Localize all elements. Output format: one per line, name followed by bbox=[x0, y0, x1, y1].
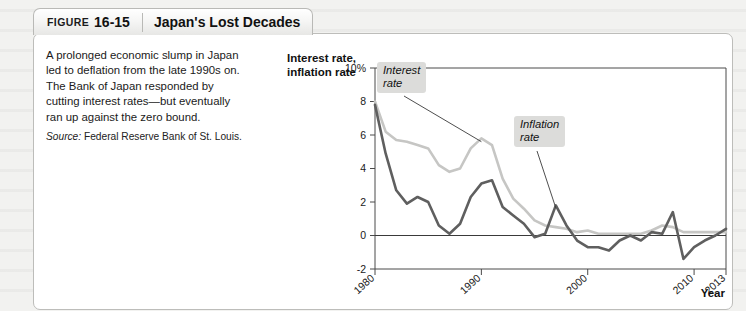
series-label-interest-rate: Interestrate bbox=[377, 62, 426, 93]
svg-text:4: 4 bbox=[360, 162, 366, 174]
svg-text:1990: 1990 bbox=[457, 271, 483, 296]
caption-text: A prolonged economic slump in Japan led … bbox=[46, 48, 244, 125]
svg-text:2: 2 bbox=[360, 196, 366, 208]
annotation-leader-lines bbox=[404, 96, 556, 208]
svg-text:0: 0 bbox=[360, 229, 366, 241]
series-label-inflation-rate: Inflationrate bbox=[514, 116, 565, 147]
chart-area: Interest rate,inflation rate -20246810% … bbox=[249, 34, 729, 311]
svg-text:8: 8 bbox=[360, 95, 366, 107]
y-axis-ticks: -20246810% bbox=[345, 62, 375, 275]
figure-number: 16-15 bbox=[94, 14, 130, 30]
svg-text:1980: 1980 bbox=[351, 271, 377, 296]
figure-title: Japan's Lost Decades bbox=[154, 14, 301, 30]
svg-text:6: 6 bbox=[360, 129, 366, 141]
caption-block: A prolonged economic slump in Japan led … bbox=[46, 48, 244, 142]
figure-label: FIGURE bbox=[47, 16, 89, 28]
svg-text:10%: 10% bbox=[345, 62, 366, 74]
figure-body: A prolonged economic slump in Japan led … bbox=[33, 33, 733, 310]
svg-text:-2: -2 bbox=[357, 263, 366, 275]
tab-divider bbox=[142, 13, 143, 32]
svg-text:2010: 2010 bbox=[670, 271, 696, 296]
plot-frame bbox=[375, 68, 726, 269]
svg-text:2000: 2000 bbox=[564, 271, 590, 296]
source-text: Federal Reserve Bank of St. Louis. bbox=[81, 131, 242, 142]
line-chart: -20246810% 19801990200020102013 bbox=[249, 34, 729, 311]
figure-panel: FIGURE 16-15 Japan's Lost Decades A prol… bbox=[33, 8, 733, 310]
figure-header-tab: FIGURE 16-15 Japan's Lost Decades bbox=[33, 8, 313, 35]
source-label: Source: bbox=[46, 131, 81, 142]
x-axis-ticks: 19801990200020102013 bbox=[351, 269, 728, 296]
x-axis-title: Year bbox=[701, 287, 725, 299]
caption-source: Source: Federal Reserve Bank of St. Loui… bbox=[46, 131, 244, 142]
